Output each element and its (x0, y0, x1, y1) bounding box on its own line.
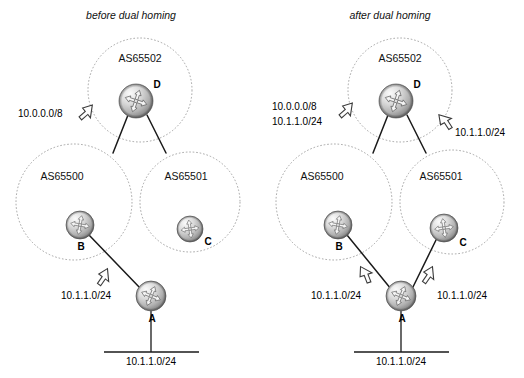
as-domain-label-as65501: AS65501 (164, 170, 207, 182)
router-label-a-before: A (148, 313, 155, 324)
as-domain-label-as65502: AS65502 (118, 52, 161, 64)
as-domain-label-as65502-after: AS65502 (378, 52, 421, 64)
network-diagram: before dual homing AS65502 AS65500 AS655… (0, 0, 524, 378)
link-d-to-as65500-after (373, 115, 388, 153)
panel-after-title: after dual homing (349, 9, 430, 21)
router-label-b-after: B (335, 241, 342, 252)
router-label-c-after: C (459, 237, 466, 248)
annotation-label-10-1-1-0-24-before: 10.1.1.0/24 (61, 290, 111, 301)
as-domain-circle-as65500-after (276, 144, 392, 260)
annotation-arrow-10-0-0-0-8-before (76, 101, 97, 123)
router-a-before (136, 281, 166, 311)
as-domain-circle-as65500 (16, 144, 132, 260)
annotation-arrow-10-1-1-0-24-d-right (435, 110, 456, 132)
panel-before: before dual homing AS65502 AS65500 AS655… (16, 9, 240, 367)
router-label-d-after: D (413, 79, 420, 90)
lan-label-after: 10.1.1.0/24 (376, 356, 426, 367)
as-domain-label-as65500-after: AS65500 (300, 170, 343, 182)
annotation-arrow-10-0-0-0-8-after (336, 99, 357, 121)
link-d-to-as65501 (147, 115, 166, 153)
link-d-to-as65500 (113, 115, 128, 153)
annotation-label-10-1-1-0-24-d-left: 10.1.1.0/24 (272, 116, 322, 127)
panel-after: after dual homing AS65502 AS65500 AS6550… (272, 9, 505, 367)
annotation-label-10-1-1-0-24-b-after: 10.1.1.0/24 (311, 290, 361, 301)
router-b-after (324, 211, 352, 239)
annotation-label-10-1-1-0-24-d-right: 10.1.1.0/24 (455, 127, 505, 138)
annotation-label-10-0-0-0-8-after: 10.0.0.0/8 (272, 101, 317, 112)
router-d-after (379, 84, 413, 118)
router-c-before (177, 216, 203, 242)
annotation-arrow-10-1-1-0-24-before (94, 266, 114, 288)
router-c-after (430, 214, 458, 242)
router-label-a-after: A (398, 313, 405, 324)
router-b-before (66, 211, 94, 239)
panel-before-title: before dual homing (86, 9, 176, 21)
lan-label-before: 10.1.1.0/24 (126, 356, 176, 367)
diagram-canvas: before dual homing AS65502 AS65500 AS655… (0, 0, 524, 378)
annotation-label-10-1-1-0-24-c-after: 10.1.1.0/24 (437, 290, 487, 301)
router-label-c-before: C (204, 236, 211, 247)
router-label-b-before: B (77, 241, 84, 252)
router-label-d-before: D (153, 79, 160, 90)
link-d-to-as65501-after (407, 115, 426, 153)
router-d-before (119, 84, 153, 118)
as-domain-label-as65501-after: AS65501 (419, 170, 462, 182)
router-a-after (386, 281, 416, 311)
annotation-label-10-0-0-0-8-before: 10.0.0.0/8 (18, 108, 63, 119)
as-domain-label-as65500: AS65500 (40, 170, 83, 182)
